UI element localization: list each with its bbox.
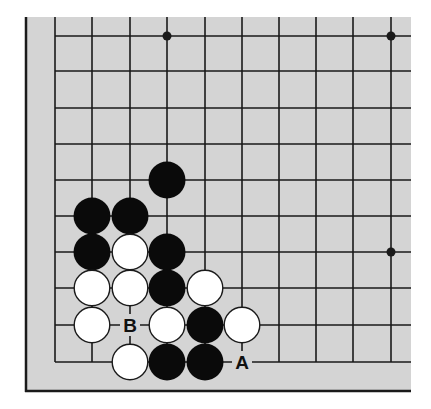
white-stone [112,234,148,270]
white-stone [112,270,148,306]
star-point [387,32,396,41]
white-stone [74,270,110,306]
white-stone [149,307,185,343]
black-stone [112,198,149,235]
black-stone [74,234,111,271]
go-board: BA [0,0,431,409]
black-stone [149,270,186,307]
black-stone [187,344,224,381]
black-stone [74,198,111,235]
black-stone [149,344,186,381]
black-stone [149,162,186,199]
black-stone [149,234,186,271]
white-stone [187,270,223,306]
black-stone [187,307,224,344]
star-point [163,32,172,41]
white-stone [74,307,110,343]
white-stone [112,344,148,380]
move-label-b: B [123,315,137,336]
star-point [387,248,396,257]
white-stone [224,307,260,343]
move-label-a: A [235,352,249,373]
